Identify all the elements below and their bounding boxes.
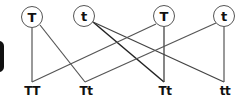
line-p2-o4 xyxy=(93,22,224,82)
offspring-genotype-1: TT xyxy=(24,84,40,98)
parent-allele-2: t xyxy=(73,5,95,27)
line-p3-o1 xyxy=(32,24,156,82)
genetic-cross-diagram: T t T t TT Tt Tt tt xyxy=(0,0,242,103)
offspring-genotype-3: Tt xyxy=(159,84,172,98)
parent-allele-3: T xyxy=(153,5,175,27)
offspring-genotype-4: tt xyxy=(220,84,230,98)
line-p1-o2 xyxy=(40,25,85,82)
parent-allele-1: T xyxy=(21,6,43,28)
parent-allele-4: t xyxy=(213,5,235,27)
offspring-genotype-2: Tt xyxy=(80,84,93,98)
